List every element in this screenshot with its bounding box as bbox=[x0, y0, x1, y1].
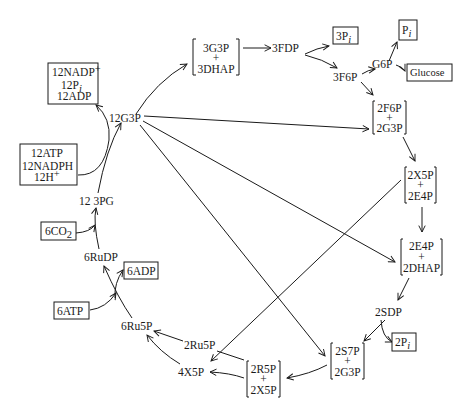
edge-g3p-to-f6p-g3p bbox=[144, 116, 369, 129]
edge-g3p-to-g3p-dhap bbox=[136, 64, 187, 114]
edge-g3p-to-s7p-g3p bbox=[140, 125, 325, 356]
svg-text:12NADP+: 12NADP+ bbox=[52, 63, 101, 78]
bracket-3g3p-3dhap: 3G3P + 3DHAP bbox=[193, 39, 239, 75]
calvin-cycle-diagram: 12G3P 12 3PG 6RuDP 6Ru5P 2Ru5P 4X5P 3FDP… bbox=[0, 0, 472, 420]
bracket-2f6p-2g3p: 2F6P + 2G3P bbox=[373, 101, 406, 134]
box-pi: Pi bbox=[399, 20, 417, 40]
svg-text:2DHAP: 2DHAP bbox=[403, 262, 440, 274]
edge-f6p-g3p-to-x5p-e4p bbox=[403, 137, 415, 161]
box-6adp: 6ADP bbox=[124, 262, 158, 279]
edge-e4p-dhap-to-sdp bbox=[398, 278, 409, 300]
node-3fdp: 3FDP bbox=[272, 42, 299, 54]
edge-x5p-e4p-to-x5p bbox=[211, 180, 401, 361]
node-6rudp: 6RuDP bbox=[84, 251, 118, 263]
box-3pi: 3Pi bbox=[333, 27, 358, 45]
box-2pi: 2Pi bbox=[392, 333, 416, 351]
bracket-2x5p-2e4p: 2X5P + 2E4P bbox=[405, 167, 436, 203]
edge-adp6-out bbox=[115, 270, 123, 298]
svg-text:12ADP: 12ADP bbox=[57, 90, 92, 102]
svg-text:3DHAP: 3DHAP bbox=[197, 63, 234, 75]
node-6ru5p: 6Ru5P bbox=[121, 320, 152, 332]
node-3f6p: 3F6P bbox=[333, 71, 357, 83]
bracket-2r5p-2x5p: 2R5P + 2X5P bbox=[247, 361, 280, 397]
edge-fdp-to-pi3 bbox=[305, 46, 329, 54]
box-6atp: 6ATP bbox=[54, 302, 89, 319]
edge-sdp-to-s7p-g3p bbox=[364, 320, 385, 341]
edge-f6p-to-f6p-g3p bbox=[361, 82, 373, 95]
edge-atp12-in bbox=[78, 140, 109, 175]
svg-text:Glucose: Glucose bbox=[410, 67, 445, 78]
edge-ru5p2-to-ru5p6 bbox=[154, 331, 183, 341]
edge-fdp-to-f6p bbox=[305, 55, 337, 68]
bracket-2e4p-2dhap: 2E4P + 2DHAP bbox=[401, 239, 442, 275]
edge-atp6-in bbox=[90, 293, 116, 310]
svg-text:6ATP: 6ATP bbox=[57, 305, 83, 317]
edge-g3p-to-e4p-dhap bbox=[143, 121, 395, 262]
edge-r5p-x5p-to-ru5p2 bbox=[217, 351, 244, 360]
edge-nadp12-out bbox=[96, 105, 109, 140]
edge-co2-in bbox=[76, 225, 95, 233]
svg-text:6ADP: 6ADP bbox=[127, 265, 156, 277]
node-2ru5p: 2Ru5P bbox=[184, 339, 215, 351]
box-glucose: Glucose bbox=[407, 64, 452, 81]
edge-r5p-x5p-to-x5p bbox=[210, 372, 244, 378]
edge-s7p-g3p-to-r5p-x5p bbox=[287, 365, 327, 378]
node-12g3p: 12G3P bbox=[109, 112, 141, 124]
box-atp-nadph-h: 12ATP 12NADPH 12H+ bbox=[20, 144, 77, 185]
svg-text:2X5P: 2X5P bbox=[250, 384, 276, 396]
edge-sdp-to-pi2 bbox=[381, 320, 392, 342]
node-2sdp: 2SDP bbox=[375, 306, 402, 318]
nodes: 12G3P 12 3PG 6RuDP 6Ru5P 2Ru5P 4X5P 3FDP… bbox=[79, 42, 402, 378]
box-nadp-pi-adp: 12NADP+ 12Pi 12ADP bbox=[48, 63, 101, 104]
node-12-3pg: 12 3PG bbox=[79, 195, 114, 207]
svg-text:2G3P: 2G3P bbox=[334, 366, 360, 378]
node-4x5p: 4X5P bbox=[178, 366, 204, 378]
svg-text:2G3P: 2G3P bbox=[376, 122, 402, 134]
edge-rudp-to-3pg bbox=[95, 208, 99, 249]
node-g6p: G6P bbox=[372, 58, 392, 70]
svg-text:12ATP: 12ATP bbox=[31, 147, 63, 159]
edge-g6p-to-glucose bbox=[396, 65, 405, 71]
box-6co2: 6CO2 bbox=[41, 222, 76, 240]
svg-text:2E4P: 2E4P bbox=[408, 190, 433, 202]
edge-x5p-to-ru5p6 bbox=[147, 335, 180, 364]
bracket-2s7p-2g3p: 2S7P + 2G3P bbox=[331, 343, 364, 379]
